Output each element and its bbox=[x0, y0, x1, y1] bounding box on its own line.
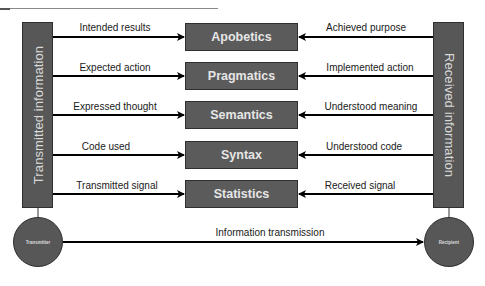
transmitter-label: Transmitter bbox=[26, 240, 51, 245]
layer-statistics: Statistics bbox=[185, 180, 298, 208]
label-achieved-purpose: Achieved purpose bbox=[326, 22, 406, 33]
label-expressed-thought: Expressed thought bbox=[73, 101, 156, 112]
layer-semantics: Semantics bbox=[185, 101, 298, 129]
label-expected-action: Expected action bbox=[79, 62, 150, 73]
recipient-node: Recipient bbox=[424, 217, 474, 267]
recipient-label: Recipient bbox=[439, 240, 459, 245]
label-received-signal: Received signal bbox=[325, 180, 396, 191]
information-layers-diagram: Transmitted information Received informa… bbox=[0, 0, 485, 286]
label-code-used: Code used bbox=[82, 141, 130, 152]
label-information-transmission: Information transmission bbox=[216, 227, 325, 238]
label-understood-meaning: Understood meaning bbox=[325, 101, 418, 112]
label-implemented-action: Implemented action bbox=[326, 62, 413, 73]
label-intended-results: Intended results bbox=[79, 22, 150, 33]
layer-syntax: Syntax bbox=[185, 141, 298, 169]
transmitted-information-label: Transmitted information bbox=[30, 46, 45, 184]
layer-pragmatics: Pragmatics bbox=[185, 62, 298, 90]
layer-apobetics: Apobetics bbox=[185, 23, 298, 51]
label-understood-code: Understood code bbox=[326, 141, 402, 152]
transmitted-information-bar: Transmitted information bbox=[22, 22, 53, 208]
transmitter-node: Transmitter bbox=[13, 217, 63, 267]
label-transmitted-signal: Transmitted signal bbox=[76, 180, 157, 191]
received-information-label: Received information bbox=[441, 53, 456, 177]
received-information-bar: Received information bbox=[433, 22, 464, 208]
